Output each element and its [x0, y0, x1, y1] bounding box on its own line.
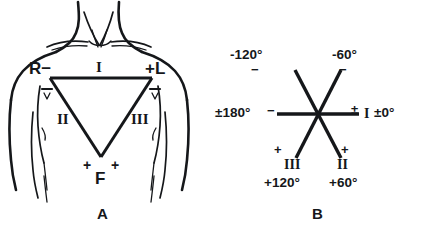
pectoral-line-left [52, 46, 87, 50]
label-right-arm-letter: R [29, 59, 41, 78]
flank-right [160, 112, 167, 198]
pectoral-line-right [112, 46, 146, 50]
label-right-arm: R− [29, 60, 51, 77]
label-minus-120-degrees: -120° [230, 48, 262, 62]
label-lead-III-polarity: + [274, 143, 282, 156]
label-right-arm-polarity: − [41, 59, 51, 78]
label-minus-120-polarity: − [251, 63, 259, 76]
label-lead-III: III [131, 112, 149, 127]
label-plus-120-degrees: +120° [264, 176, 300, 190]
arm-right-outer [182, 100, 189, 190]
label-180-polarity: − [267, 104, 275, 117]
throat-notch-right [100, 12, 113, 45]
panel-a-caption: A [97, 205, 108, 222]
label-left-arm: +L [145, 60, 165, 77]
elbow-tick-right [153, 128, 156, 140]
label-lead-I-polarity: ± [351, 103, 358, 116]
polarity-tick-left [44, 93, 50, 99]
label-plus-60-degrees: +60° [329, 176, 357, 190]
label-lead-I: I [96, 60, 102, 75]
panel-a: R− +L I II III + + F A [0, 0, 211, 242]
label-zero-degrees: ±0° [374, 106, 394, 120]
label-foot-polarity-right: + [111, 158, 119, 172]
neck-right-edge [118, 2, 142, 52]
polarity-tick-right [152, 93, 158, 99]
label-axis-lead-I: I [364, 107, 369, 121]
label-left-arm-letter: L [155, 59, 165, 78]
label-foot-polarity-left: + [83, 158, 91, 172]
label-axis-lead-III: III [284, 158, 300, 172]
label-lead-II-polarity: + [341, 143, 349, 156]
throat-notch [84, 12, 99, 45]
figure-root: R− +L I II III + + F A -120° − -60° − ±1… [0, 0, 422, 242]
label-lead-II: II [57, 112, 69, 127]
label-plus-minus-180-degrees: ±180° [215, 106, 250, 120]
label-foot: F [95, 170, 105, 187]
panel-b: -120° − -60° − ±180° − ± I ±0° + III +12… [211, 0, 422, 242]
label-axis-lead-II: II [337, 158, 348, 172]
flank-left [32, 112, 39, 198]
label-minus-60-polarity: − [339, 63, 347, 76]
label-left-arm-polarity: + [145, 59, 155, 78]
neck-left-edge [56, 2, 79, 52]
label-minus-60-degrees: -60° [332, 48, 357, 62]
panel-b-caption: B [312, 205, 323, 222]
elbow-tick-left [42, 128, 45, 140]
armpit-crease-left [38, 86, 44, 163]
arm-left-outer [10, 100, 17, 190]
